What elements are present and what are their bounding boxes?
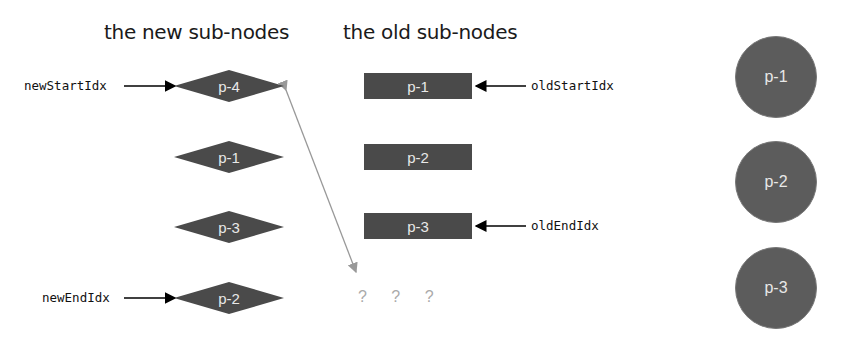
old-node-rect: p-1 [364, 73, 472, 99]
unknown-placeholder: ? ? ? [358, 288, 444, 306]
new-end-idx-label: newEndIdx [42, 290, 110, 305]
dom-node-circle: p-1 [735, 36, 817, 118]
old-node-rect: p-2 [364, 144, 472, 170]
node-label: p-2 [736, 142, 816, 222]
new-node-diamond: p-2 [174, 282, 284, 314]
new-node-diamond: p-1 [174, 141, 284, 173]
old-node-rect: p-3 [364, 213, 472, 239]
node-label: p-2 [364, 144, 472, 170]
dom-node-circle: p-3 [735, 247, 817, 329]
dom-node-circle: p-2 [735, 141, 817, 223]
node-label: p-3 [174, 211, 284, 243]
node-label: p-3 [736, 248, 816, 328]
new-node-diamond: p-4 [174, 70, 284, 102]
node-label: p-4 [174, 70, 284, 102]
node-label: p-1 [174, 141, 284, 173]
node-label: p-1 [364, 73, 472, 99]
new-start-idx-label: newStartIdx [24, 78, 107, 93]
old-end-idx-label: oldEndIdx [531, 218, 599, 233]
node-label: p-2 [174, 282, 284, 314]
new-node-diamond: p-3 [174, 211, 284, 243]
move-arrow [286, 90, 356, 272]
node-label: p-1 [736, 37, 816, 117]
node-label: p-3 [364, 213, 472, 239]
old-start-idx-label: oldStartIdx [531, 78, 614, 93]
